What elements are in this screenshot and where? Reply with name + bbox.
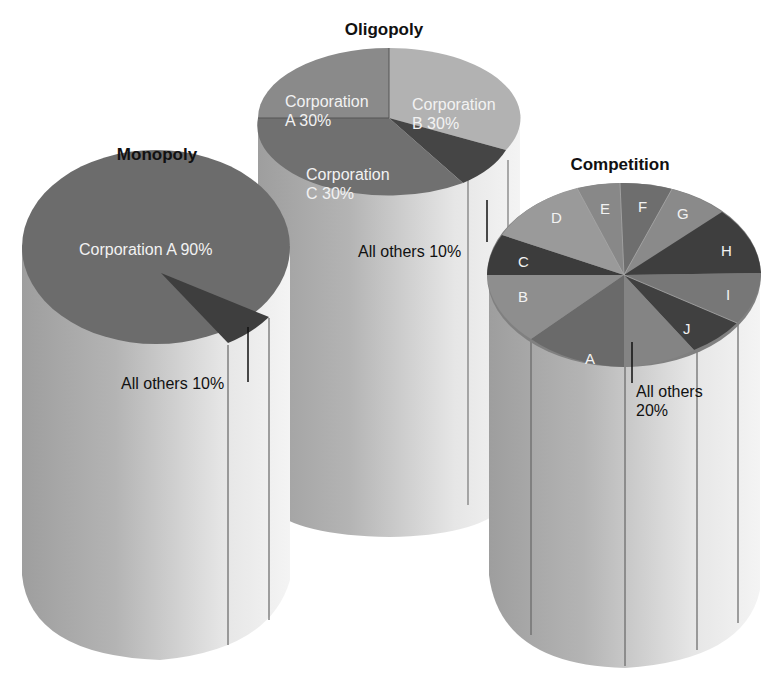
monopoly-label-others: All others 10% bbox=[121, 375, 224, 392]
monopoly-chart: Monopoly Corporation A 90% All others 10… bbox=[22, 145, 290, 660]
oligopoly-label-c: Corporation bbox=[306, 166, 390, 183]
oligopoly-label-b-pct: B 30% bbox=[412, 115, 459, 132]
competition-label-others-pct: 20% bbox=[636, 402, 668, 419]
competition-title: Competition bbox=[570, 155, 669, 174]
competition-label-e: E bbox=[600, 200, 610, 217]
competition-label-others: All others bbox=[636, 383, 703, 400]
monopoly-label-a: Corporation A 90% bbox=[79, 241, 212, 258]
competition-label-g: G bbox=[677, 205, 689, 222]
competition-label-j: J bbox=[683, 320, 691, 337]
oligopoly-label-a: Corporation bbox=[285, 93, 369, 110]
competition-label-c: C bbox=[518, 253, 529, 270]
oligopoly-label-others: All others 10% bbox=[358, 243, 461, 260]
competition-label-d: D bbox=[551, 209, 562, 226]
oligopoly-title: Oligopoly bbox=[345, 20, 424, 39]
oligopoly-label-c-pct: C 30% bbox=[306, 185, 354, 202]
market-structure-cylinders: Oligopoly Corporation A 30% Corporation … bbox=[0, 0, 765, 683]
competition-label-i: I bbox=[726, 286, 730, 303]
competition-label-b: B bbox=[518, 288, 528, 305]
competition-label-f: F bbox=[638, 198, 647, 215]
competition-label-a: A bbox=[585, 350, 595, 367]
monopoly-title: Monopoly bbox=[117, 145, 198, 164]
oligopoly-label-a-pct: A 30% bbox=[285, 112, 331, 129]
competition-chart: Competition A B C D E F G H I J All othe… bbox=[487, 155, 761, 668]
competition-label-h: H bbox=[721, 242, 732, 259]
oligopoly-chart: Oligopoly Corporation A 30% Corporation … bbox=[257, 20, 520, 537]
oligopoly-label-b: Corporation bbox=[412, 96, 496, 113]
